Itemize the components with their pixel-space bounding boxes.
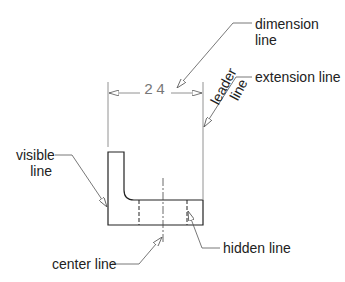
label-visible-line-1: visible [16, 147, 52, 163]
dimension-value: 24 [144, 83, 168, 99]
label-dimension-line: dimension line [255, 16, 319, 48]
label-center-line: center line [52, 256, 117, 272]
label-hidden-line: hidden line [223, 240, 291, 256]
label-dimension-line-1: dimension [255, 16, 319, 32]
visible-leader [55, 155, 107, 207]
label-dimension-line-2: line [255, 32, 319, 48]
center-leader [112, 237, 162, 264]
label-visible-line-2: line [16, 163, 52, 179]
label-extension-line: extension line [255, 69, 341, 85]
label-visible-line: visible line [16, 147, 52, 179]
hidden-leader [188, 211, 220, 248]
